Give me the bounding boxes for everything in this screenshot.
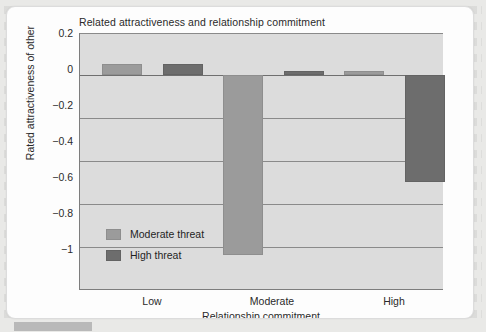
plot-area: Moderate threat High threat bbox=[79, 33, 443, 290]
page-bottom-strip bbox=[14, 322, 92, 331]
legend-item-moderate-threat[interactable]: Moderate threat bbox=[106, 228, 204, 240]
chart-title: Related attractiveness and relationship … bbox=[79, 16, 325, 28]
y-tick-6: −1 bbox=[19, 243, 73, 255]
legend-label-moderate-threat: Moderate threat bbox=[130, 228, 204, 240]
legend-swatch-icon-moderate-threat bbox=[106, 229, 121, 240]
chart-card: Related attractiveness and relationship … bbox=[6, 6, 474, 319]
legend-label-high-threat: High threat bbox=[130, 249, 181, 261]
bar-low-high-threat[interactable] bbox=[163, 64, 203, 75]
legend-item-high-threat[interactable]: High threat bbox=[106, 249, 204, 261]
bar-high-moderate-threat[interactable] bbox=[344, 71, 384, 75]
y-axis-label: Rated attractiveness of other bbox=[24, 6, 36, 188]
x-axis-label: Relationship commitment bbox=[79, 310, 443, 319]
gridline-0.2 bbox=[80, 33, 443, 34]
bar-high-high-threat[interactable] bbox=[405, 75, 445, 182]
legend-swatch-icon-high-threat bbox=[106, 250, 121, 261]
bar-moderate-high-threat[interactable] bbox=[284, 71, 324, 75]
chart-legend: Moderate threat High threat bbox=[106, 228, 204, 270]
bar-low-moderate-threat[interactable] bbox=[102, 64, 142, 75]
y-tick-5: −0.8 bbox=[19, 207, 73, 219]
x-tick-high: High bbox=[383, 295, 405, 307]
chart-figure: Related attractiveness and relationship … bbox=[7, 7, 473, 318]
x-tick-moderate: Moderate bbox=[250, 295, 294, 307]
x-tick-low: Low bbox=[142, 295, 161, 307]
bar-moderate-moderate-threat[interactable] bbox=[223, 75, 263, 255]
